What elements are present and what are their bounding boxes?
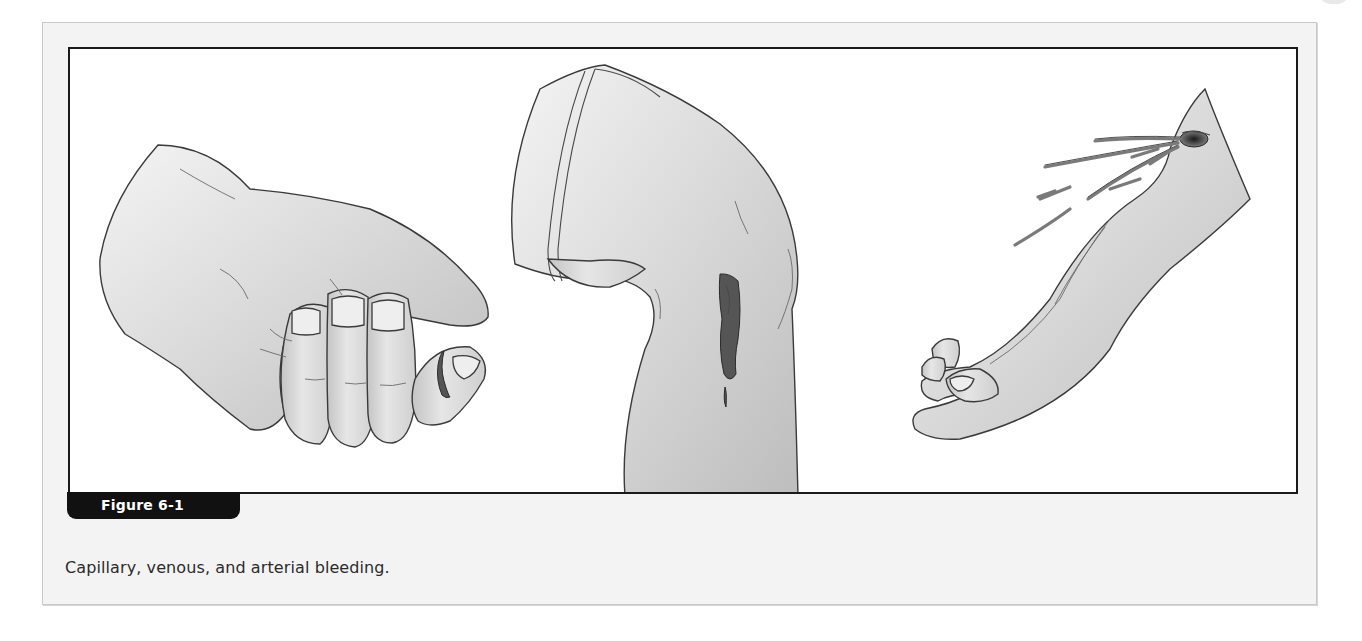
capillary-bleeding-hand-drawing — [100, 145, 488, 447]
arterial-bleeding-arm-drawing — [913, 89, 1250, 439]
figure-caption: Capillary, venous, and arterial bleeding… — [65, 558, 390, 578]
figure-illustration — [68, 47, 1298, 494]
venous-bleeding-knee-drawing — [512, 65, 798, 494]
page-corner-mark — [1320, 0, 1348, 4]
page: Figure 6-1 Capillary, venous, and arteri… — [0, 0, 1362, 641]
figure-label: Figure 6-1 — [101, 497, 184, 513]
figure-label-tab: Figure 6-1 — [67, 492, 240, 519]
